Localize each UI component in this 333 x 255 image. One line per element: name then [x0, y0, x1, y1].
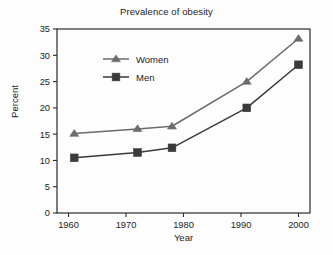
- plot-area: 05101520253035 19601970198019902000 Wome…: [0, 0, 333, 255]
- data-point-marker-square: [112, 73, 120, 81]
- data-series-women: [70, 34, 303, 136]
- plot-frame: [57, 29, 310, 213]
- data-point-marker-square: [295, 61, 303, 69]
- legend-label-women: Women: [136, 54, 169, 65]
- x-tick-label: 2000: [288, 220, 309, 230]
- y-tick-label: 5: [45, 182, 50, 192]
- legend-label-men: Men: [136, 72, 154, 83]
- y-tick-label: 30: [40, 51, 50, 61]
- data-point-marker-triangle: [168, 122, 177, 129]
- y-tick-label: 10: [40, 156, 50, 166]
- x-tick-label: 1990: [231, 220, 252, 230]
- x-tick-label: 1960: [58, 220, 79, 230]
- y-tick-label: 35: [40, 24, 50, 34]
- y-tick-label: 0: [45, 208, 50, 218]
- data-point-marker-square: [243, 104, 251, 112]
- chart-legend: WomenMen: [103, 54, 169, 83]
- y-tick-label: 20: [40, 103, 50, 113]
- x-axis-ticks: 19601970198019902000: [58, 213, 309, 230]
- data-point-marker-square: [168, 144, 176, 152]
- series-line: [74, 38, 298, 133]
- data-point-marker-triangle: [294, 34, 303, 41]
- x-tick-label: 1970: [116, 220, 137, 230]
- y-axis-ticks: 05101520253035: [40, 24, 57, 218]
- data-point-marker-square: [70, 154, 78, 162]
- data-series-men: [70, 61, 302, 162]
- y-tick-label: 15: [40, 130, 50, 140]
- data-series-layer: [70, 34, 303, 161]
- series-line: [74, 65, 298, 158]
- x-tick-label: 1980: [173, 220, 194, 230]
- data-point-marker-square: [134, 149, 142, 157]
- chart-figure: Prevalence of obesity Percent Year 05101…: [0, 0, 333, 255]
- y-tick-label: 25: [40, 77, 50, 87]
